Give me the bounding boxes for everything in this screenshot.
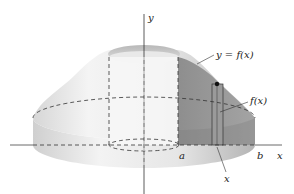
curve-label-leader <box>197 55 214 64</box>
shell-rectangle <box>212 84 223 145</box>
a-label: a <box>179 150 185 161</box>
curve-point-dot <box>215 82 219 86</box>
x-axis-label: x <box>277 150 283 161</box>
shell-method-diagram: y y = f(x) f(x) a b x x <box>0 0 294 194</box>
y-axis-label: y <box>147 12 154 23</box>
shell-radius-label: x <box>224 173 230 184</box>
curve-label: y = f(x) <box>215 49 254 60</box>
inner-cylinder-face <box>109 57 178 145</box>
b-label: b <box>257 150 263 161</box>
shell-height-label: f(x) <box>249 95 267 106</box>
